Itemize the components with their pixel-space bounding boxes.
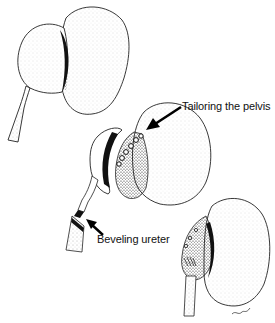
kidney-after (182, 198, 270, 316)
ureter-upper (78, 176, 98, 212)
pyeloplasty-illustration (0, 0, 275, 323)
artist-signature (232, 308, 250, 314)
kidney-before (8, 7, 129, 142)
kidney-during (66, 103, 211, 252)
label-tailoring-pelvis: Tailoring the pelvis (182, 100, 271, 112)
label-beveling-ureter: Beveling ureter (97, 233, 170, 245)
